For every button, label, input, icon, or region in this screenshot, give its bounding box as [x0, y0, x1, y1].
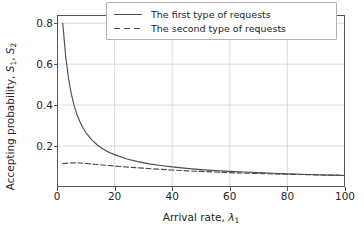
y-tick-label: 0.4: [36, 100, 53, 111]
y-tick-label: 0.8: [36, 18, 53, 29]
plot-area: 0.20.40.60.8020406080100: [57, 15, 345, 187]
y-axis-symbol-s2: S: [4, 47, 16, 54]
y-tick-mark: [54, 105, 58, 106]
legend-swatch-dashed-icon: [113, 23, 143, 33]
y-axis-label-text: Accepting probability,: [4, 72, 16, 190]
legend-item-first: The first type of requests: [113, 7, 330, 21]
legend-swatch-solid-icon: [113, 9, 143, 19]
legend-label-second: The second type of requests: [151, 23, 286, 34]
series-line-1: [63, 23, 345, 175]
plot-border: [58, 16, 345, 187]
x-tick-mark: [287, 187, 288, 191]
y-tick-mark: [54, 146, 58, 147]
x-tick-mark: [345, 187, 346, 191]
y-axis-sub-2: 2: [9, 43, 18, 48]
plot-svg: [57, 15, 345, 187]
x-axis-label: Arrival rate, λ1: [57, 211, 345, 225]
y-tick-label: 0.6: [36, 59, 53, 70]
y-axis-symbol-s1: S: [4, 66, 16, 73]
y-axis-sub-1: 1: [9, 61, 18, 66]
gridlines: [57, 15, 345, 187]
y-tick-label: 0.2: [36, 141, 53, 152]
x-tick-label: 60: [223, 191, 236, 202]
series-line-2: [63, 163, 345, 175]
y-tick-mark: [54, 64, 58, 65]
x-tick-mark: [57, 187, 58, 191]
x-tick-mark: [230, 187, 231, 191]
chart-figure: Accepting probability, S1, S2 Arrival ra…: [0, 0, 364, 233]
x-tick-label: 40: [166, 191, 179, 202]
y-axis-label-sep: ,: [4, 54, 16, 61]
y-tick-mark: [54, 23, 58, 24]
x-axis-label-text: Arrival rate,: [163, 211, 228, 223]
legend-item-second: The second type of requests: [113, 21, 330, 35]
x-tick-label: 80: [281, 191, 294, 202]
data-curves: [63, 23, 345, 175]
y-axis-label: Accepting probability, S1, S2: [2, 0, 18, 233]
x-axis-sub-1: 1: [234, 216, 239, 225]
x-tick-label: 0: [54, 191, 61, 202]
legend: The first type of requests The second ty…: [106, 2, 337, 40]
legend-label-first: The first type of requests: [151, 9, 271, 20]
x-tick-mark: [172, 187, 173, 191]
x-tick-label: 20: [108, 191, 121, 202]
x-tick-mark: [115, 187, 116, 191]
x-tick-label: 100: [335, 191, 355, 202]
